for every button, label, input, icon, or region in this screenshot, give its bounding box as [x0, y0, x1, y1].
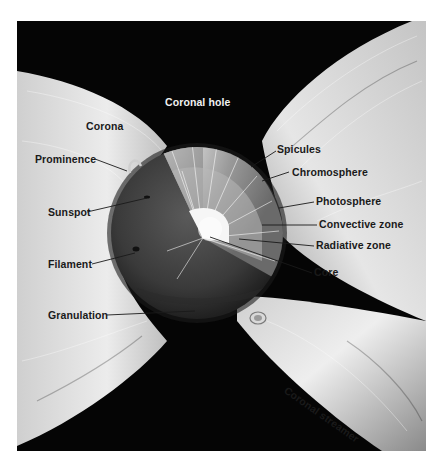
label-core: Core	[314, 266, 338, 278]
label-corona: Corona	[86, 120, 123, 132]
label-granulation: Granulation	[48, 309, 108, 321]
label-radiative-zone: Radiative zone	[316, 239, 391, 251]
label-coronal-hole: Coronal hole	[165, 96, 230, 108]
illustration-artwork	[17, 21, 426, 451]
label-filament: Filament	[48, 258, 92, 270]
label-convective-zone: Convective zone	[319, 218, 403, 230]
label-prominence: Prominence	[35, 153, 96, 165]
sun-structure-illustration: Coronal hole Corona Prominence Sunspot F…	[17, 21, 426, 451]
label-spicules: Spicules	[277, 143, 321, 155]
label-photosphere: Photosphere	[316, 195, 381, 207]
label-sunspot: Sunspot	[48, 206, 91, 218]
filament-mark	[133, 247, 140, 252]
label-chromosphere: Chromosphere	[292, 166, 368, 178]
